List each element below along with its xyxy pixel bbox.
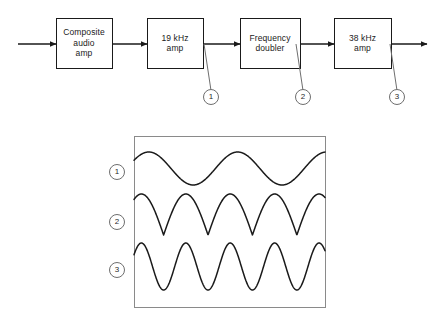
test-point-circle-2 bbox=[296, 90, 311, 105]
waveform-panel bbox=[135, 137, 326, 308]
leader-line-tp-1 bbox=[204, 44, 211, 89]
block-composite-audio-amp bbox=[57, 19, 113, 69]
block-38-khz-amp bbox=[335, 19, 392, 69]
test-point-circle-3 bbox=[390, 90, 405, 105]
diagram-canvas bbox=[0, 0, 447, 319]
waveform-label-circles bbox=[110, 165, 125, 278]
waveform-label-circle-2 bbox=[110, 215, 125, 230]
block-frequency-doubler bbox=[241, 19, 301, 69]
test-point-circles bbox=[204, 90, 405, 105]
test-point-circle-1 bbox=[204, 90, 219, 105]
waveform-panel-border bbox=[135, 137, 326, 308]
waveform-label-circle-3 bbox=[110, 263, 125, 278]
waveform-label-circle-1 bbox=[110, 165, 125, 180]
block-19-khz-amp bbox=[148, 19, 204, 69]
figure-root: Compositeaudioamp19 kHzampFrequencydoubl… bbox=[0, 0, 447, 319]
